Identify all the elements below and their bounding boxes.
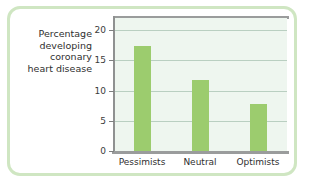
y-axis-tick-label: 0: [84, 147, 106, 156]
y-axis-tickmark: [109, 151, 114, 152]
y-axis-tick-label: 5: [84, 117, 106, 126]
y-axis-title-line-1: Percentage: [16, 28, 92, 40]
y-axis-tick-label: 10: [84, 87, 106, 96]
y-axis-title: Percentage developing coronary heart dis…: [16, 28, 92, 74]
y-axis-tickmark: [109, 121, 114, 122]
y-axis-title-line-4: heart disease: [16, 63, 92, 75]
x-axis-line: [112, 151, 289, 154]
bar-chart: 05101520 PessimistsNeutralOptimists Perc…: [0, 0, 312, 190]
x-axis-category-label: Pessimists: [113, 157, 171, 167]
bar: [250, 104, 267, 151]
y-axis-title-line-2: developing: [16, 40, 92, 52]
x-axis-category-label: Neutral: [171, 157, 229, 167]
bar: [192, 80, 209, 151]
y-axis-tickmark: [109, 30, 114, 31]
gridline: [115, 30, 287, 31]
bar: [134, 46, 151, 151]
x-axis-category-label: Optimists: [229, 157, 287, 167]
y-axis-title-line-3: coronary: [16, 51, 92, 63]
y-axis-line: [113, 16, 115, 154]
y-axis-tick-label-text: 10: [88, 87, 106, 96]
y-axis-tick-label-text: 0: [88, 147, 106, 156]
y-axis-tickmark: [109, 91, 114, 92]
y-axis-tick-label-text: 5: [88, 117, 106, 126]
y-axis-tickmark: [109, 60, 114, 61]
